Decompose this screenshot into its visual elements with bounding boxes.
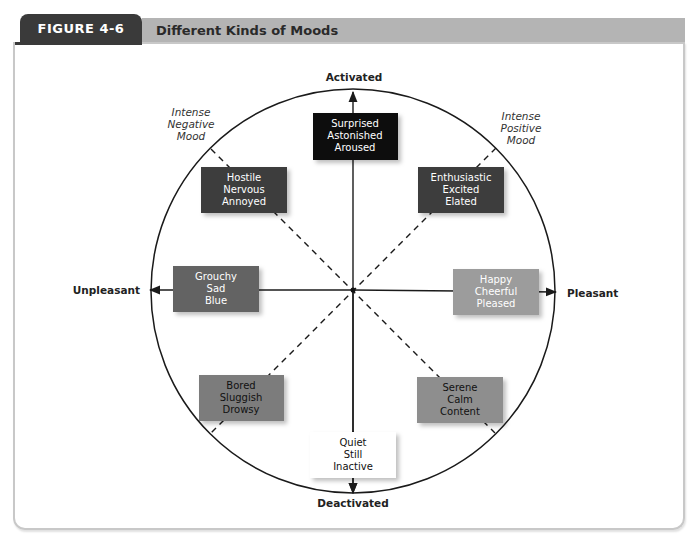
svg-text:Calm: Calm [447, 394, 473, 405]
axis-label-unpleasant: Unpleasant [73, 284, 140, 296]
svg-text:Enthusiastic: Enthusiastic [431, 172, 492, 183]
svg-text:Annoyed: Annoyed [222, 196, 266, 207]
svg-text:Astonished: Astonished [327, 130, 382, 141]
svg-text:Mood: Mood [177, 130, 206, 142]
svg-text:Pleased: Pleased [477, 298, 516, 309]
svg-text:Intense: Intense [502, 110, 541, 122]
svg-text:Aroused: Aroused [335, 142, 376, 153]
mood-box-quiet: Quiet Still Inactive [310, 431, 396, 478]
svg-text:Negative: Negative [167, 118, 214, 130]
svg-text:Elated: Elated [445, 196, 477, 207]
svg-text:Happy: Happy [480, 274, 512, 285]
svg-text:Blue: Blue [205, 295, 227, 306]
mood-box-hostile: Hostile Nervous Annoyed [201, 167, 287, 213]
label-intense-negative-mood: Intense Negative Mood [167, 106, 214, 142]
svg-text:Sad: Sad [207, 283, 226, 294]
svg-text:Quiet: Quiet [339, 437, 366, 448]
axis-label-activated: Activated [326, 71, 383, 83]
svg-text:Positive: Positive [501, 122, 542, 134]
axis-label-deactivated: Deactivated [317, 497, 388, 509]
svg-text:Serene: Serene [442, 382, 477, 393]
svg-text:Still: Still [344, 449, 363, 460]
mood-box-happy: Happy Cheerful Pleased [453, 269, 539, 315]
mood-circumplex-diagram: Activated Deactivated Unpleasant Pleasan… [0, 0, 699, 548]
svg-text:Content: Content [440, 406, 480, 417]
mood-box-grouchy: Grouchy Sad Blue [173, 266, 259, 312]
svg-text:Grouchy: Grouchy [195, 271, 237, 282]
svg-text:Cheerful: Cheerful [475, 286, 517, 297]
svg-text:Hostile: Hostile [227, 172, 261, 183]
svg-text:Inactive: Inactive [333, 461, 373, 472]
svg-text:Mood: Mood [507, 134, 536, 146]
mood-box-bored: Bored Sluggish Drowsy [199, 375, 284, 421]
axis-label-pleasant: Pleasant [567, 287, 618, 299]
mood-box-surprised: Surprised Astonished Aroused [313, 113, 398, 160]
svg-text:Bored: Bored [226, 380, 255, 391]
center-dot [351, 288, 356, 293]
mood-box-enthusiastic: Enthusiastic Excited Elated [418, 167, 504, 213]
label-intense-positive-mood: Intense Positive Mood [501, 110, 542, 146]
mood-box-serene: Serene Calm Content [417, 377, 503, 423]
svg-text:Excited: Excited [443, 184, 480, 195]
svg-text:Drowsy: Drowsy [222, 404, 259, 415]
svg-text:Sluggish: Sluggish [220, 392, 263, 403]
svg-text:Intense: Intense [172, 106, 211, 118]
svg-text:Surprised: Surprised [331, 118, 379, 129]
svg-text:Nervous: Nervous [223, 184, 264, 195]
